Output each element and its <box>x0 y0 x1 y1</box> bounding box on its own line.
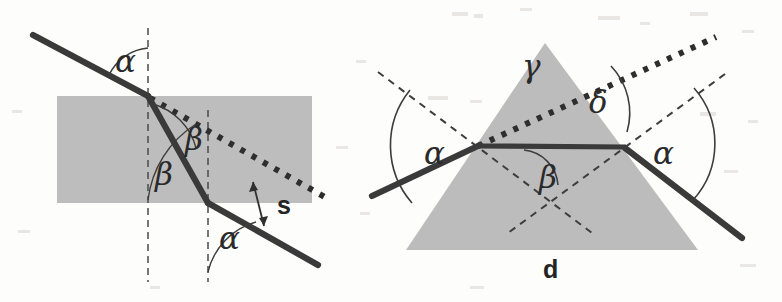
label-base-d: d <box>543 255 558 283</box>
label-alpha-exit: α <box>219 220 240 256</box>
arc-delta-deviation <box>611 66 630 132</box>
figure-canvas: α β β α s <box>0 0 782 302</box>
label-alpha-right: α <box>653 135 674 171</box>
internal-ray-prism <box>480 146 625 147</box>
optics-figure: α β β α s <box>0 0 782 302</box>
label-beta-lower: β <box>154 156 173 192</box>
label-displacement-s: s <box>277 191 291 219</box>
label-gamma-apex: γ <box>522 48 541 84</box>
slab-diagram: α β β α s <box>33 28 330 282</box>
arc-alpha-right <box>693 88 715 200</box>
prism-diagram: α α γ δ β d <box>372 37 742 283</box>
label-alpha-incidence: α <box>115 43 136 79</box>
label-beta-internal: β <box>538 159 557 195</box>
label-delta-deviation: δ <box>589 84 608 120</box>
label-alpha-left: α <box>424 135 445 171</box>
